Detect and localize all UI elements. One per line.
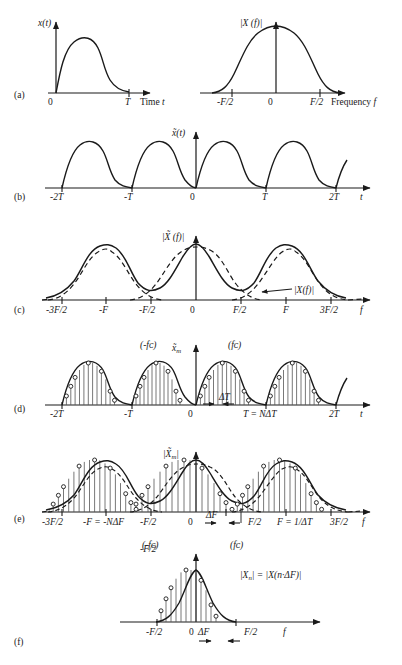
x-tick-label-neg-F-NdF: -F = -NΔF: [83, 517, 124, 527]
sample-marker: [246, 485, 250, 489]
sample-marker: [290, 361, 294, 365]
sample-marker: [230, 507, 234, 511]
x-tick-label-0: 0: [190, 305, 195, 315]
x-tick-label-2T: 2T: [329, 409, 340, 419]
panel-c-label: (c): [14, 305, 25, 316]
sample-marker: [77, 464, 81, 468]
sample-marker: [159, 609, 163, 613]
sample-marker: [69, 384, 73, 388]
sample-marker: [273, 384, 277, 388]
y-axis-label: |X̃ (f)|: [162, 230, 184, 243]
sample-marker: [233, 369, 237, 373]
plot-frequency-domain-continuous: -F/2 0 F/2 Frequency f |X (f)|: [200, 18, 377, 107]
sample-marker: [184, 568, 188, 572]
sample-marker: [235, 502, 239, 506]
sample-spacing-label: ΔF: [197, 627, 210, 637]
sample-marker: [164, 464, 168, 468]
y-axis-label: |X̃m|: [163, 447, 179, 460]
signal-curve: [56, 38, 129, 93]
x-tick-label-neg-F-half: -F/2: [139, 305, 156, 315]
sample-marker: [140, 493, 144, 497]
x-tick-label-neg-2T: -2T: [50, 192, 64, 202]
sample-marker: [154, 361, 158, 365]
y-axis-label: |X (f)|: [240, 18, 262, 29]
panel-e-label: (e): [14, 514, 25, 525]
sample-stems: [53, 460, 321, 512]
sample-marker: [200, 466, 204, 470]
x-tick-label-0: 0: [268, 97, 273, 107]
panel-f: (f) |Xn| = |X(n·ΔF)| -F/2 0 ΔF F/2 f -F/…: [14, 544, 320, 648]
note-neg-fc: -F/2: [140, 544, 157, 554]
plot-dft-coefficients: |Xn| = |X(n·ΔF)| -F/2 0 ΔF F/2 f -F/2: [120, 544, 320, 641]
x-tick-label-neg-F: -F: [99, 305, 108, 315]
sample-marker: [169, 586, 173, 590]
sample-spacing-label: ΔF: [205, 510, 218, 520]
sample-marker: [242, 389, 246, 393]
panel-b: (b) -2T -T 0 T 2T t x̃(t): [14, 128, 370, 203]
sample-marker: [99, 369, 103, 373]
sample-marker: [56, 493, 60, 497]
panel-d-label: (d): [14, 404, 25, 415]
x-tick-label-neg-2T: -2T: [50, 409, 64, 419]
sample-marker: [209, 603, 213, 607]
sample-marker: [108, 466, 112, 470]
sample-marker: [174, 389, 178, 393]
x-axis-label: f: [283, 627, 287, 637]
sample-marker: [241, 493, 245, 497]
sample-marker: [113, 398, 117, 402]
sample-marker: [62, 485, 66, 489]
x-tick-label-pos-F-half: F/2: [309, 97, 323, 107]
sample-marker: [182, 458, 186, 462]
sample-marker: [164, 597, 168, 601]
sample-marker: [278, 458, 282, 462]
panel-f-label: (f): [14, 637, 24, 648]
x-tick-label-F: F: [282, 305, 289, 315]
sample-marker: [198, 394, 202, 398]
sample-marker: [277, 375, 281, 379]
sample-marker: [142, 375, 146, 379]
x-tick-label-neg-F-half: -F/2: [146, 627, 163, 637]
x-tick-label-neg-T: -T: [124, 192, 133, 202]
sample-marker: [224, 501, 228, 505]
x-tick-label-T: T: [262, 192, 268, 202]
sample-marker: [293, 466, 297, 470]
x-tick-label-3F-half: 3F/2: [319, 305, 338, 315]
panel-a-label: (a): [14, 90, 25, 101]
panel-a: (a) 0 T Time t x(t) -F/2 0 F/2 Frequency…: [14, 18, 377, 107]
x-tick-label-T-NdT: T = NΔT: [243, 409, 277, 419]
figure-svg: (a) 0 T Time t x(t) -F/2 0 F/2 Frequency…: [0, 0, 402, 665]
note-pos-fc: (fᴄ): [230, 540, 243, 551]
x-tick-label-T: T: [125, 97, 131, 107]
x-axis-label: Time t: [140, 97, 165, 107]
panel-c: (c) |X(f)| -3F/2 -F -F/2 0: [14, 230, 370, 316]
x-axis-label: f: [360, 305, 364, 315]
sample-marker: [309, 492, 313, 496]
sample-marker: [262, 464, 266, 468]
note-pos-fc: (fᴄ): [228, 340, 241, 351]
sample-marker: [247, 398, 251, 402]
x-tick-label-neg-T: -T: [124, 409, 133, 419]
sample-marker: [268, 394, 272, 398]
y-axis-label: x(t): [37, 18, 51, 29]
sample-marker: [199, 578, 203, 582]
sample-marker: [214, 614, 218, 618]
sample-marker: [178, 398, 182, 402]
sample-marker: [220, 361, 224, 365]
x-tick-label-3F-half: 3F/2: [329, 517, 348, 527]
sample-marker: [108, 389, 112, 393]
annotation-label-Xn: |Xn| = |X(n·ΔF)|: [240, 570, 301, 581]
sample-marker: [314, 501, 318, 505]
x-tick-label-F-half: F/2: [243, 627, 257, 637]
figure-sampling-dft: (a) 0 T Time t x(t) -F/2 0 F/2 Frequency…: [0, 0, 402, 665]
plot-frequency-domain-sampled: ΔF -3F/2 -F = -NΔF -F/2 0 F/2 F = 1/ΔT 3…: [42, 447, 370, 551]
panel-b-label: (b): [14, 192, 25, 203]
y-axis-label: x̃(t): [171, 128, 185, 139]
plot-time-domain-sampled: ΔT -2T -T 0 T = NΔT 2T t x̃m (-fᴄ) (fᴄ): [45, 340, 370, 419]
x-axis-label: t: [360, 192, 363, 202]
panel-e: (e) ΔF -3F/2 -F = -NΔF -: [14, 447, 370, 551]
sample-marker: [312, 389, 316, 393]
sample-marker: [320, 507, 324, 511]
sample-marker: [138, 384, 142, 388]
sample-marker: [73, 375, 77, 379]
sample-marker: [303, 369, 307, 373]
